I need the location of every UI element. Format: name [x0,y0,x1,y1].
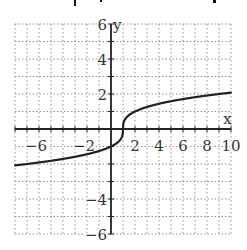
cube-root-graph: −6−2246810642−4−6 x y [0,0,247,250]
x-tick-label: 6 [178,137,188,155]
clipped-text-fragment [100,0,102,2]
x-tick-label: 8 [202,137,212,155]
x-tick-label: 10 [221,137,240,155]
y-tick-label: 2 [97,86,107,104]
y-axis-label: y [112,16,122,34]
clipped-text-fragment [213,0,216,3]
y-tick-label: −6 [85,226,107,244]
clipped-text-fragment [74,0,76,6]
y-tick-label: 4 [97,51,107,69]
x-axis-label: x [223,110,232,128]
y-tick-label: −4 [85,191,107,209]
y-tick-label: 6 [97,16,107,34]
tick-labels: −6−2246810642−4−6 [25,16,241,244]
x-tick-label: 2 [130,137,140,155]
x-tick-label: 4 [154,137,164,155]
x-tick-label: −6 [25,137,47,155]
